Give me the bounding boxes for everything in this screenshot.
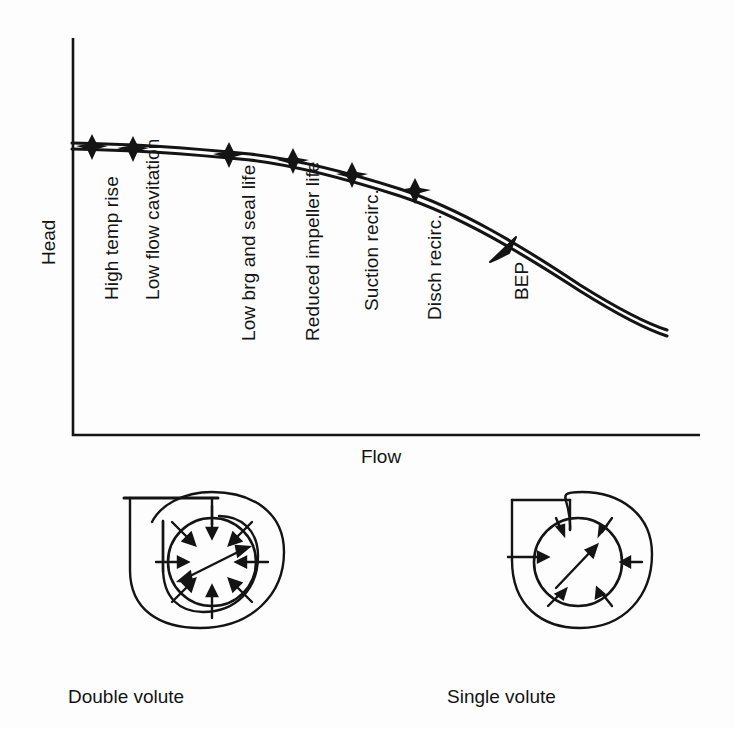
single-volute-diagram [508,492,652,628]
double-volute-diagram [124,492,284,628]
single-volute-caption: Single volute (Radial forces not balance… [447,634,684,729]
double-volute-caption: Double volute (Radial forces partially b… [68,634,345,729]
volute-diagrams [0,0,735,729]
single-volute-vane-arrow [556,545,597,588]
double-volute-force-arrows [156,506,268,618]
single-volute-force-arrows [508,518,642,606]
single-volute-impeller [534,518,622,606]
double-volute-outer-wall [130,492,284,628]
figure-root: High temp rise Low flow cavitation Low b… [0,0,735,729]
single-volute-caption-title: Single volute [447,684,684,709]
double-volute-caption-title: Double volute [68,684,345,709]
